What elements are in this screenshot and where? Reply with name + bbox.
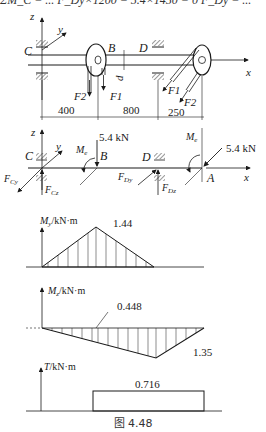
bearing-c-top [36, 40, 48, 46]
reaction-fcy: FCy [3, 173, 19, 186]
fbd-z-label: z [30, 126, 36, 138]
mz-curve [42, 328, 204, 358]
point-b-label: B [108, 41, 116, 55]
my-peak-value: 1.44 [113, 217, 133, 229]
my-moment-chart: My/kN·m 1.44 [26, 215, 204, 267]
load-b-label: 5.4 kN [99, 131, 129, 143]
load-a-label: 5.4 kN [226, 142, 256, 154]
bearing-c-bottom [36, 74, 48, 80]
moment-a-label: Me [185, 131, 197, 144]
fbd-point-a: A [206, 171, 215, 185]
x-axis-label: x [245, 66, 251, 78]
reaction-fcz: FCz [44, 184, 59, 197]
y-axis-label: y [57, 23, 63, 35]
bearing-d-top [152, 40, 164, 46]
my-axis-title: My/kN·m [39, 215, 78, 228]
fbd-point-b: B [100, 149, 108, 163]
bearing-d-bottom [152, 74, 164, 80]
pulley-b [86, 44, 106, 76]
t-value: 0.716 [135, 378, 160, 390]
fbd-x-label: x [243, 171, 249, 183]
mz-d-value: 1.35 [193, 346, 213, 358]
mz-moment-chart: Mz/kN·m 0.448 1.35 [26, 285, 213, 358]
dimension-400: 400 [58, 104, 75, 116]
force-f2-a-label: F2 [183, 96, 197, 108]
figure-caption: 图 4.48 [0, 414, 266, 430]
t-axis-title: T/kN·m [44, 361, 76, 372]
mz-b-value: 0.448 [117, 300, 142, 312]
z-axis-label: z [29, 10, 35, 22]
point-d-label: D [138, 41, 148, 55]
dimension-800: 800 [123, 104, 140, 116]
diameter-label: d [113, 75, 125, 81]
fbd-point-c: C [25, 149, 34, 163]
fbd-point-d: D [141, 150, 151, 164]
engineering-diagram: z y x C B F2 F1 d D [0, 0, 266, 432]
shaft-assembly: z y x C B F2 F1 d D [24, 10, 251, 120]
moment-b-label: Me [75, 144, 87, 157]
force-f1-b-label: F1 [109, 90, 122, 102]
t-block [93, 391, 204, 411]
mz-axis-title: Mz/kN·m [47, 285, 85, 298]
reaction-fdy: FDy [117, 171, 133, 184]
force-f1-a-label: F1 [167, 84, 180, 96]
point-c-label: C [24, 44, 33, 58]
moment-b-arc [84, 158, 95, 172]
free-body-diagram: z y x C FCy FCz 5.4 kN B Me D FDy FDz [3, 126, 256, 197]
torque-chart: T/kN·m 0.716 [26, 361, 222, 411]
fbd-y-label: y [55, 140, 61, 152]
reaction-fdz: FDz [161, 182, 176, 195]
my-triangle [42, 227, 154, 267]
dimension-250: 250 [168, 106, 185, 118]
pulley-a [193, 45, 211, 75]
moment-a-arc [189, 155, 200, 172]
force-f2-b-label: F2 [73, 90, 87, 102]
